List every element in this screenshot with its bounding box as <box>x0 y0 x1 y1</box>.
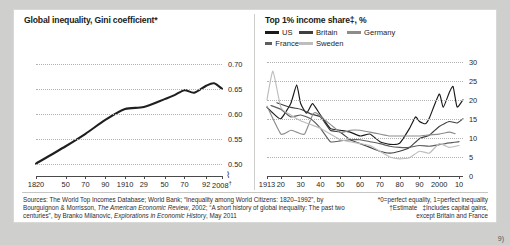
sources-text: Sources: The World Top Incomes Database;… <box>23 196 353 221</box>
note-dagger-line: †Estimate ‡Includes capital gains, <box>348 204 488 212</box>
legend-swatch-icon <box>347 31 361 33</box>
x-axis-tick-label: 2000 <box>431 180 447 189</box>
x-axis-tick <box>301 176 302 179</box>
left-plot-area: 0.500.550.600.650.7018205070901910295070… <box>36 52 222 176</box>
gridline <box>267 81 463 82</box>
gridline <box>267 157 463 158</box>
x-axis-tick <box>165 176 166 179</box>
legend-item-britain[interactable]: Britain <box>299 27 347 38</box>
y-axis-tick-label: 0.70 <box>228 60 242 69</box>
x-axis-tick-label: 90 <box>101 180 109 189</box>
legend-swatch-icon <box>299 42 313 44</box>
legend-item-us[interactable]: US <box>265 27 299 38</box>
panel-global-gini: Global inequality, Gini coefficient* 0.5… <box>14 10 254 190</box>
legend-swatch-icon <box>299 31 313 34</box>
left-chart-title: Global inequality, Gini coefficient* <box>24 15 157 25</box>
x-axis-tick-label: 30 <box>297 180 305 189</box>
footnote-divider <box>22 192 488 193</box>
page-marker: 9) <box>498 235 504 242</box>
x-axis-tick <box>85 176 86 179</box>
x-axis-tick <box>320 176 321 179</box>
gridline <box>267 138 463 139</box>
right-chart-title: Top 1% income share‡, % <box>265 15 366 25</box>
x-axis-tick-label: 50 <box>160 180 168 189</box>
x-axis-tick <box>459 176 460 179</box>
note-doubledagger-2: except Britain and France <box>348 212 488 220</box>
right-chart-legend: USBritainGermanyFranceSweden <box>265 27 490 49</box>
y-axis-tick-label: 25 <box>469 76 477 85</box>
x-axis-tick <box>144 176 145 179</box>
footnotes: Sources: The World Top Incomes Database;… <box>14 192 496 222</box>
x-axis-tick <box>360 176 361 179</box>
x-axis-tick-label: 92 <box>202 180 210 189</box>
legend-item-sweden[interactable]: Sweden <box>299 38 347 49</box>
x-axis-tick-label: 29 <box>140 180 148 189</box>
axis-break-icon: ⌇ <box>226 170 230 180</box>
legend-label: France <box>275 39 299 48</box>
y-axis-tick-label: 5 <box>469 152 473 161</box>
legend-item-germany[interactable]: Germany <box>347 27 395 38</box>
legend-row: USBritainGermany <box>265 27 490 38</box>
notes-text: *0=perfect equality, 1=perfect inequalit… <box>348 196 488 221</box>
x-axis-tick <box>222 176 223 179</box>
series-line-france <box>271 105 459 147</box>
x-axis-tick-label: 10 <box>455 180 463 189</box>
y-axis-tick-label: 20 <box>469 95 477 104</box>
legend-label: Britain <box>316 28 338 37</box>
y-axis-tick-label: 0.60 <box>228 110 242 119</box>
x-axis-line <box>36 176 222 177</box>
legend-item-france[interactable]: France <box>265 38 299 49</box>
legend-label: Germany <box>364 28 395 37</box>
x-axis-tick <box>184 176 185 179</box>
gridline <box>36 89 222 90</box>
note-star: *0=perfect equality, 1=perfect inequalit… <box>348 196 488 204</box>
y-axis-tick-label: 0.65 <box>228 85 242 94</box>
x-axis-tick-label: 1913 <box>259 180 275 189</box>
series-line-global-gini-coefficient <box>36 83 222 163</box>
y-axis-tick-label: 0 <box>469 172 473 181</box>
series-line-germany <box>267 106 455 136</box>
x-axis-tick-label: 2008† <box>212 180 232 190</box>
gridline <box>267 119 463 120</box>
x-axis-line <box>267 176 463 177</box>
x-axis-tick-label: 20 <box>277 180 285 189</box>
x-axis-tick-label: 70 <box>376 180 384 189</box>
x-axis-tick-label: 80 <box>396 180 404 189</box>
x-axis-tick-label: 70 <box>180 180 188 189</box>
x-axis-tick <box>267 176 268 179</box>
infographic-figure: Global inequality, Gini coefficient* 0.5… <box>0 0 510 245</box>
x-axis-tick <box>125 176 126 179</box>
x-axis-tick <box>340 176 341 179</box>
note-dagger: †Estimate <box>389 204 417 211</box>
gridline <box>36 164 222 165</box>
x-axis-tick <box>206 176 207 179</box>
legend-swatch-icon <box>265 31 279 34</box>
x-axis-tick-label: 50 <box>336 180 344 189</box>
x-axis-tick-label: 50 <box>62 180 70 189</box>
gridline <box>36 64 222 65</box>
legend-label: US <box>282 28 293 37</box>
gridline <box>36 114 222 115</box>
y-axis-tick-label: 0.50 <box>228 159 242 168</box>
gridline <box>36 139 222 140</box>
x-axis-tick-label: 90 <box>415 180 423 189</box>
x-axis-tick <box>400 176 401 179</box>
x-axis-tick <box>105 176 106 179</box>
gridline <box>267 100 463 101</box>
x-axis-tick-label: 40 <box>316 180 324 189</box>
legend-row: FranceSweden <box>265 38 490 49</box>
y-axis-tick-label: 0.55 <box>228 134 242 143</box>
right-plot-area: 05101520253019132030405060708090200010 <box>267 54 463 176</box>
y-axis-tick-label: 30 <box>469 57 477 66</box>
x-axis-tick <box>66 176 67 179</box>
note-doubledagger: ‡Includes capital gains, <box>423 204 488 211</box>
source-journal: The American Economic Review <box>98 204 189 211</box>
x-axis-tick-label: 1910 <box>117 180 133 189</box>
x-axis-tick <box>419 176 420 179</box>
panel-top-income-share: Top 1% income share‡, % USBritainGermany… <box>255 10 496 190</box>
source-journal: Explorations in Economic History <box>114 212 206 219</box>
y-axis-tick-label: 10 <box>469 133 477 142</box>
series-line-us <box>267 85 463 145</box>
legend-label: Sweden <box>316 39 343 48</box>
x-axis-tick-label: 60 <box>356 180 364 189</box>
